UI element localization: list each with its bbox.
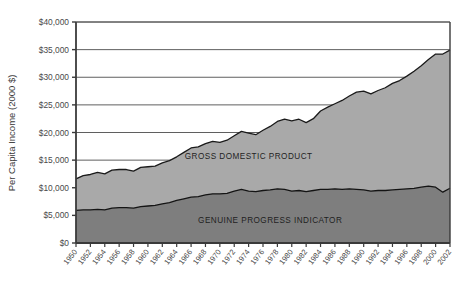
series-annotation-0: GROSS DOMESTIC PRODUCT bbox=[185, 152, 313, 161]
y-tick-label: $5,000 bbox=[43, 210, 69, 220]
area-chart: $0$5,000$10,000$15,000$20,000$25,000$30,… bbox=[0, 0, 465, 294]
y-tick-label: $30,000 bbox=[39, 72, 70, 82]
y-tick-label: $40,000 bbox=[39, 17, 70, 27]
y-tick-label: $0 bbox=[60, 238, 70, 248]
y-tick-label: $25,000 bbox=[39, 100, 70, 110]
y-tick-label: $35,000 bbox=[39, 45, 70, 55]
chart-container: $0$5,000$10,000$15,000$20,000$25,000$30,… bbox=[0, 0, 465, 294]
y-tick-label: $20,000 bbox=[39, 128, 70, 138]
series-annotation-1: GENUINE PROGRESS INDICATOR bbox=[198, 216, 342, 225]
y-tick-label: $15,000 bbox=[39, 155, 70, 165]
y-tick-label: $10,000 bbox=[39, 183, 70, 193]
y-axis-title-group: Per Capita Income (2000 $) bbox=[6, 75, 17, 192]
y-axis-title: Per Capita Income (2000 $) bbox=[6, 75, 17, 192]
